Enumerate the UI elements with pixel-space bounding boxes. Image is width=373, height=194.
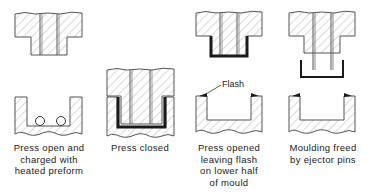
stage-1-caption: Press open and charged with heated prefo… [5, 142, 93, 177]
flash-annotation: Flash [222, 79, 244, 89]
stage-3-caption: Press opened leaving flash on lower half… [186, 142, 272, 188]
moulding [301, 60, 343, 77]
stage-3-lower-mould [196, 85, 262, 133]
stage-3-upper-mould [196, 11, 262, 56]
stage-4-lower-mould [289, 93, 355, 133]
stage-2-closed-mould [107, 68, 174, 137]
flash-leader-line [206, 85, 221, 94]
stage-4-caption: Moulding freed by ejector pins [277, 142, 369, 165]
stage-1-lower-mould [15, 97, 82, 135]
stage-4-upper-mould [289, 11, 355, 77]
stage-1-upper-mould [15, 12, 82, 55]
preform-icon [36, 117, 45, 126]
preform-icon [57, 117, 66, 126]
stage-2-caption: Press closed [98, 142, 182, 154]
